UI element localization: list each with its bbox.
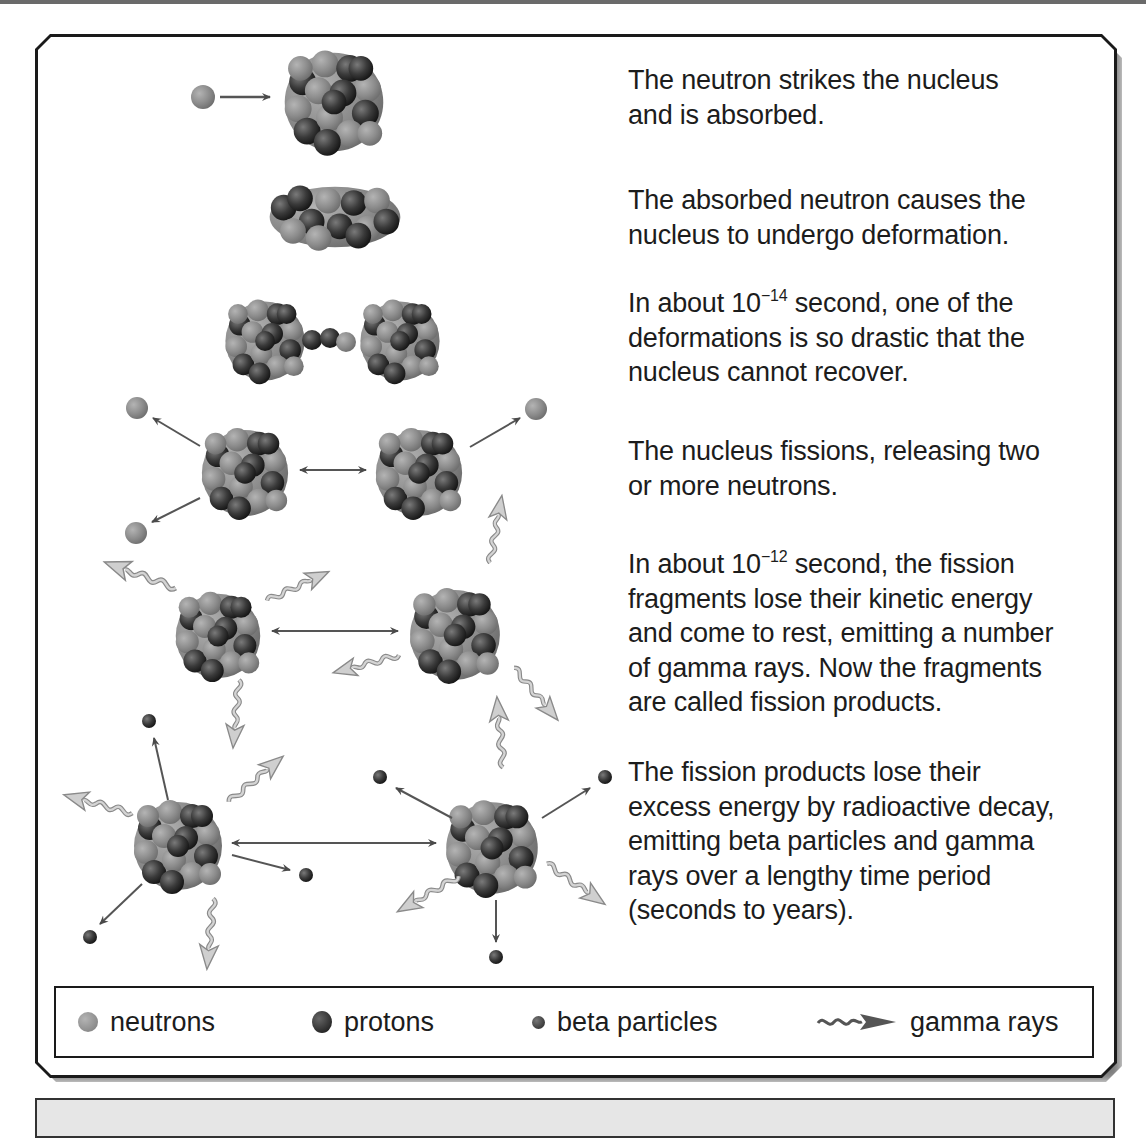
neutron-particle [191,85,215,109]
legend-beta: beta particles [532,988,718,1056]
legend-gamma: gamma rays [816,988,1059,1056]
step-decay-text: The fission products lose their excess e… [628,755,1108,928]
stage-absorb [191,50,383,155]
beta-particle-icon [532,1016,545,1029]
step-absorb-text: The neutron strikes the nucleus and is a… [628,63,1108,132]
caption-box [35,1098,1115,1138]
nucleus [285,50,384,155]
proton-icon [312,1011,332,1033]
neutron-icon [78,1012,98,1032]
legend: neutrons protons beta particles gamma ra… [54,986,1094,1058]
stage-drastic [225,300,439,385]
stage-decay [61,696,612,970]
gamma-ray-icon [816,1010,898,1034]
step-fission-text: The nucleus fissions, releasing two or m… [628,434,1108,503]
step-drastic-text: In about 10−14 second, one of the deform… [628,286,1108,390]
step-deform-text: The absorbed neutron causes the nucleus … [628,183,1108,252]
deformed-nucleus [270,186,401,251]
stage-fission [125,397,547,544]
step-gamma-text: In about 10−12 second, the fission fragm… [628,547,1108,720]
legend-neutrons: neutrons [78,988,215,1056]
legend-protons: protons [312,988,434,1056]
